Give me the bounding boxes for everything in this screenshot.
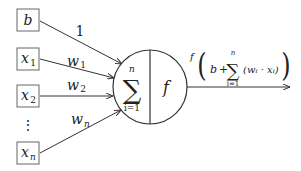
svg-text:f: f xyxy=(189,51,196,62)
input-sub-xn: n xyxy=(30,152,36,162)
formula-close-paren: ) xyxy=(281,47,290,84)
input-box-x1: x 1 xyxy=(17,48,39,70)
svg-text:n: n xyxy=(84,119,90,129)
svg-text:n: n xyxy=(231,49,236,57)
formula-open-paren: ( xyxy=(197,47,206,84)
formula-sum-icon: ∑ xyxy=(227,60,240,81)
svg-text:1: 1 xyxy=(80,60,86,70)
svg-text:w: w xyxy=(67,53,79,69)
sum-lower-limit: i=1 xyxy=(124,103,140,113)
input-box-x2: x 2 xyxy=(17,85,39,107)
input-label-x2: x xyxy=(21,87,29,103)
weight-label-wn: w n xyxy=(71,111,90,129)
input-box-b: b xyxy=(17,9,39,31)
neuron-diagram: b x 1 x 2 ⋮ x n 1 w 1 w 2 w n n ∑ i=1 f xyxy=(0,0,301,171)
svg-text:w: w xyxy=(71,111,83,127)
svg-text:2: 2 xyxy=(80,84,86,94)
ellipsis-vertical: ⋮ xyxy=(21,117,35,133)
input-label-x1: x xyxy=(21,50,29,66)
svg-text:i=1: i=1 xyxy=(227,80,240,88)
svg-text:w: w xyxy=(67,77,79,93)
sum-icon: ∑ xyxy=(123,75,142,105)
neuron-node: n ∑ i=1 f xyxy=(113,50,187,124)
input-sub-x2: 2 xyxy=(30,95,36,105)
input-label-xn: x xyxy=(21,144,29,160)
input-sub-x1: 1 xyxy=(30,58,36,68)
sum-upper-limit: n xyxy=(129,64,135,74)
input-label-b: b xyxy=(24,12,33,28)
input-box-xn: x n xyxy=(17,142,39,164)
weight-label-b: 1 xyxy=(76,23,85,39)
output-formula: f ( b + n ∑ i=1 (wᵢ · xᵢ) ) xyxy=(189,47,291,88)
weight-label-w1: w 1 xyxy=(67,53,86,70)
svg-text:(wᵢ · xᵢ): (wᵢ · xᵢ) xyxy=(243,64,279,75)
weight-label-w2: w 2 xyxy=(67,77,86,94)
svg-text:b: b xyxy=(210,63,217,76)
